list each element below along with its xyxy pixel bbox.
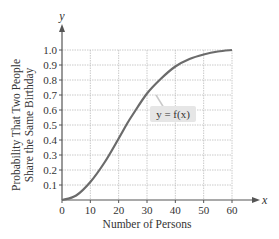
annotation-label: y = f(x) [156, 108, 190, 121]
y-tick-label: 0.4 [43, 134, 57, 146]
x-tick-label: 60 [227, 204, 239, 216]
y-axis-variable: y [58, 9, 65, 23]
y-tick-label: 1.0 [43, 44, 57, 56]
y-tick-label: 0.9 [43, 59, 57, 71]
x-tick-label: 20 [113, 204, 125, 216]
y-axis-title: Probability That Two People Share the Sa… [10, 59, 36, 191]
y-axis-title-line-2: Share the Same Birthday [23, 67, 36, 182]
x-tick-label: 50 [198, 204, 210, 216]
y-tick-label: 0.8 [43, 74, 57, 86]
x-tick-label: 10 [85, 204, 97, 216]
y-tick-label: 0.2 [43, 164, 57, 176]
y-tick-label: 0.1 [43, 179, 57, 191]
y-tick-label: 0.6 [43, 104, 57, 116]
curve-annotation: y = f(x) [150, 95, 196, 122]
y-axis-title-line-1: Probability That Two People [10, 59, 23, 191]
x-axis-variable: x [261, 193, 268, 207]
y-tick-label: 0.3 [43, 149, 57, 161]
x-tick-label: 0 [59, 204, 65, 216]
x-axis-title: Number of Persons [103, 218, 192, 230]
birthday-probability-chart: 0.10.20.30.40.50.60.70.80.91.00102030405… [0, 0, 279, 239]
tick-labels: 0.10.20.30.40.50.60.70.80.91.00102030405… [43, 44, 238, 216]
grid-lines [62, 50, 232, 200]
x-tick-label: 40 [170, 204, 182, 216]
y-tick-label: 0.7 [43, 89, 57, 101]
y-tick-label: 0.5 [43, 119, 57, 131]
x-tick-label: 30 [142, 204, 154, 216]
